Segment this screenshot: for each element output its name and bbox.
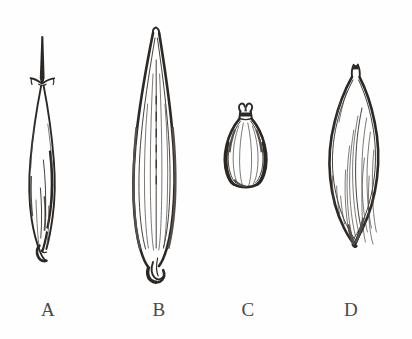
specimen-label-c: C [228, 298, 268, 322]
specimen-label-row: A B C D [0, 298, 412, 334]
botanical-illustration-canvas [0, 0, 412, 339]
figure-plate: A B C D [0, 0, 412, 339]
plate-background [0, 0, 412, 339]
specimen-label-a: A [28, 298, 68, 322]
specimen-label-d: D [331, 298, 371, 322]
specimen-label-b: B [139, 298, 179, 322]
